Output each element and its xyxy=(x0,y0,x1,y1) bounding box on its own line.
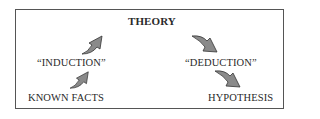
curved-arrow-down-icon xyxy=(190,33,220,55)
theory-label: THEORY xyxy=(128,15,176,27)
curved-arrow-down-icon xyxy=(213,68,243,90)
curved-arrow-up-icon xyxy=(80,34,108,56)
induction-label: “INDUCTION” xyxy=(37,57,106,68)
known-facts-label: KNOWN FACTS xyxy=(28,92,104,103)
hypothesis-label: HYPOTHESIS xyxy=(208,92,273,103)
deduction-label: “DEDUCTION” xyxy=(185,57,257,68)
curved-arrow-up-icon xyxy=(68,70,94,90)
